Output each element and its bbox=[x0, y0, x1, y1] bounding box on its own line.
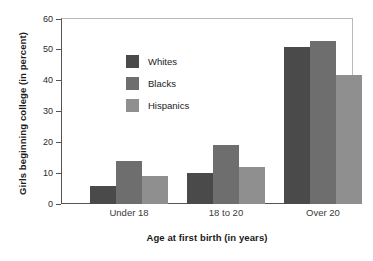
bar bbox=[90, 186, 116, 205]
bar bbox=[284, 47, 310, 204]
bar-chart: Girls beginning college (in percent) 010… bbox=[0, 0, 373, 261]
x-axis-title: Age at first birth (in years) bbox=[61, 232, 353, 243]
bars-layer bbox=[62, 19, 352, 204]
x-axis-tick-label: Under 18 bbox=[109, 207, 148, 218]
y-axis-tick-label: 50 bbox=[43, 45, 56, 54]
y-axis-ticks: 0102030405060 bbox=[0, 18, 61, 204]
bar bbox=[187, 173, 213, 204]
x-axis-tick-label: 18 to 20 bbox=[209, 207, 243, 218]
bar bbox=[142, 176, 168, 204]
bar-group bbox=[187, 19, 265, 204]
y-axis-tick-label: 30 bbox=[43, 107, 56, 116]
y-axis-tick-label: 40 bbox=[43, 76, 56, 85]
bar bbox=[239, 167, 265, 204]
x-axis-tick-label: Over 20 bbox=[306, 207, 340, 218]
x-axis-tick-labels: Under 1818 to 20Over 20 bbox=[62, 207, 352, 223]
y-axis-tick-label: 10 bbox=[43, 168, 56, 177]
y-axis-tick-label: 60 bbox=[43, 14, 56, 23]
y-axis-tick-label: 20 bbox=[43, 137, 56, 146]
bar bbox=[213, 145, 239, 204]
bar-group bbox=[284, 19, 362, 204]
bar-group bbox=[90, 19, 168, 204]
bar bbox=[336, 75, 362, 205]
bar bbox=[310, 41, 336, 204]
y-axis-tick-label: 0 bbox=[48, 199, 56, 208]
bar bbox=[116, 161, 142, 204]
